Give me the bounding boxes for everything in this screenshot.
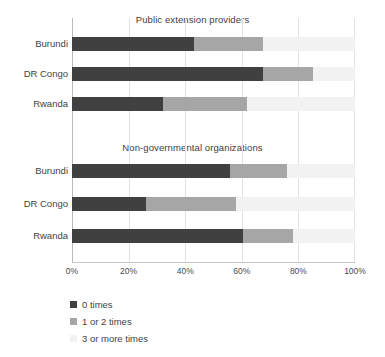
- category-label-drcongo-ngo: DR Congo: [24, 197, 68, 211]
- bar-segment-3-or-more-times: [293, 229, 355, 243]
- bar-row: [72, 37, 355, 51]
- plot-area: [72, 18, 355, 263]
- gridline-80: [298, 18, 299, 263]
- bar-segment-0-times: [72, 97, 163, 111]
- gridlines: [72, 18, 355, 263]
- bar-row: [72, 164, 355, 178]
- category-label-rwanda-ngo: Rwanda: [33, 229, 68, 243]
- legend-item-0-times: 0 times: [70, 296, 148, 313]
- bar-segment-0-times: [72, 164, 230, 178]
- x-axis-tick-60: 60%: [233, 266, 250, 276]
- bar-segment-0-times: [72, 67, 263, 81]
- legend-label: 0 times: [82, 299, 113, 310]
- chart-legend: 0 times 1 or 2 times 3 or more times: [70, 296, 148, 347]
- legend-item-1-or-2-times: 1 or 2 times: [70, 313, 148, 330]
- gridline-60: [242, 18, 243, 263]
- x-axis-baseline: [72, 262, 355, 263]
- bar-row: [72, 197, 355, 211]
- legend-swatch-icon: [70, 335, 77, 342]
- bar-segment-0-times: [72, 197, 146, 211]
- bar-segment-1-or-2-times: [163, 97, 248, 111]
- bar-segment-3-or-more-times: [287, 164, 355, 178]
- stacked-bar-chart: Public extension providers Non-governmen…: [0, 0, 385, 357]
- bar-row: [72, 97, 355, 111]
- legend-label: 3 or more times: [82, 333, 148, 344]
- gridline-40: [185, 18, 186, 263]
- bar-segment-3-or-more-times: [247, 97, 355, 111]
- gridline-100: [354, 18, 355, 263]
- legend-swatch-icon: [70, 301, 77, 308]
- category-label-burundi-ngo: Burundi: [35, 164, 68, 178]
- category-label-burundi-public: Burundi: [35, 37, 68, 51]
- bar-row: [72, 229, 355, 243]
- bar-row: [72, 67, 355, 81]
- y-axis-line: [72, 18, 73, 263]
- legend-label: 1 or 2 times: [82, 316, 132, 327]
- x-axis-tick-40: 40%: [177, 266, 194, 276]
- bar-segment-0-times: [72, 37, 194, 51]
- category-label-drcongo-public: DR Congo: [24, 67, 68, 81]
- x-axis-tick-20: 20%: [120, 266, 137, 276]
- x-axis-tick-100: 100%: [344, 266, 366, 276]
- bar-segment-1-or-2-times: [230, 164, 287, 178]
- bar-segment-1-or-2-times: [263, 67, 313, 81]
- gridline-20: [129, 18, 130, 263]
- bar-segment-1-or-2-times: [194, 37, 263, 51]
- bar-segment-3-or-more-times: [313, 67, 355, 81]
- bar-segment-1-or-2-times: [243, 229, 293, 243]
- bar-segment-3-or-more-times: [263, 37, 355, 51]
- legend-item-3-or-more-times: 3 or more times: [70, 330, 148, 347]
- x-axis-tick-0: 0%: [66, 266, 78, 276]
- category-label-rwanda-public: Rwanda: [33, 97, 68, 111]
- legend-swatch-icon: [70, 318, 77, 325]
- bar-segment-0-times: [72, 229, 243, 243]
- bar-segment-1-or-2-times: [146, 197, 237, 211]
- bar-segment-3-or-more-times: [236, 197, 355, 211]
- x-axis-tick-80: 80%: [290, 266, 307, 276]
